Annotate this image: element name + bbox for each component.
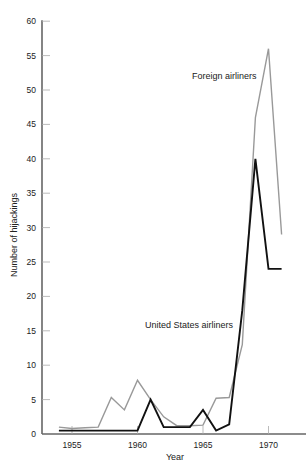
- y-tick-label: 40: [27, 154, 37, 164]
- y-tick-label: 30: [27, 223, 37, 233]
- y-axis: 051015202530354045505560: [27, 16, 50, 439]
- x-axis: 1955196019651970: [42, 426, 306, 450]
- us-airliners-label: United States airliners: [145, 320, 234, 330]
- y-tick-label: 0: [31, 429, 36, 439]
- hijackings-line-chart: 051015202530354045505560 195519601965197…: [0, 0, 308, 468]
- x-tick-label: 1955: [63, 440, 82, 450]
- y-tick-label: 45: [27, 119, 37, 129]
- y-tick-label: 20: [27, 291, 37, 301]
- x-tick-label: 1965: [194, 440, 213, 450]
- y-tick-label: 55: [27, 51, 37, 61]
- y-tick-label: 60: [27, 16, 37, 26]
- foreign-airliners-label: Foreign airliners: [192, 71, 257, 81]
- y-tick-label: 15: [27, 326, 37, 336]
- x-tick-label: 1970: [259, 440, 278, 450]
- x-tick-label: 1960: [128, 440, 147, 450]
- series-lines: [59, 49, 282, 431]
- y-axis-label: Number of hijackings: [9, 192, 19, 277]
- y-tick-label: 25: [27, 257, 37, 267]
- us-airliners-line: [59, 159, 282, 431]
- y-tick-label: 10: [27, 360, 37, 370]
- y-tick-label: 50: [27, 85, 37, 95]
- y-tick-label: 35: [27, 188, 37, 198]
- y-tick-label: 5: [31, 395, 36, 405]
- x-axis-label: Year: [166, 452, 184, 462]
